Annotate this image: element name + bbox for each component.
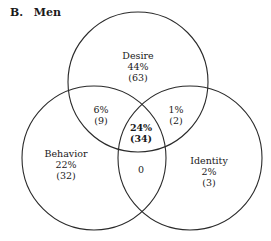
region-behavior-only: Behavior 22% (32)	[44, 148, 87, 181]
region-value: 0	[138, 164, 144, 175]
region-name: Identity	[190, 155, 228, 166]
region-percent: 44%	[122, 61, 153, 72]
region-percent: 1%	[168, 104, 183, 115]
region-count: (34)	[130, 133, 152, 144]
region-all-three: 24% (34)	[130, 122, 152, 144]
region-behavior-identity: 0	[138, 164, 144, 175]
region-desire-identity: 1% (2)	[168, 104, 183, 126]
region-percent: 22%	[44, 159, 87, 170]
region-percent: 24%	[130, 122, 152, 133]
region-name: Desire	[122, 50, 153, 61]
region-count: (63)	[122, 72, 153, 83]
venn-diagram	[0, 0, 271, 241]
region-name: Behavior	[44, 148, 87, 159]
region-percent: 6%	[93, 104, 108, 115]
region-count: (2)	[168, 115, 183, 126]
region-count: (3)	[190, 177, 228, 188]
region-desire-only: Desire 44% (63)	[122, 50, 153, 83]
region-identity-only: Identity 2% (3)	[190, 155, 228, 188]
region-count: (32)	[44, 170, 87, 181]
region-count: (9)	[93, 115, 108, 126]
region-percent: 2%	[190, 166, 228, 177]
region-desire-behavior: 6% (9)	[93, 104, 108, 126]
